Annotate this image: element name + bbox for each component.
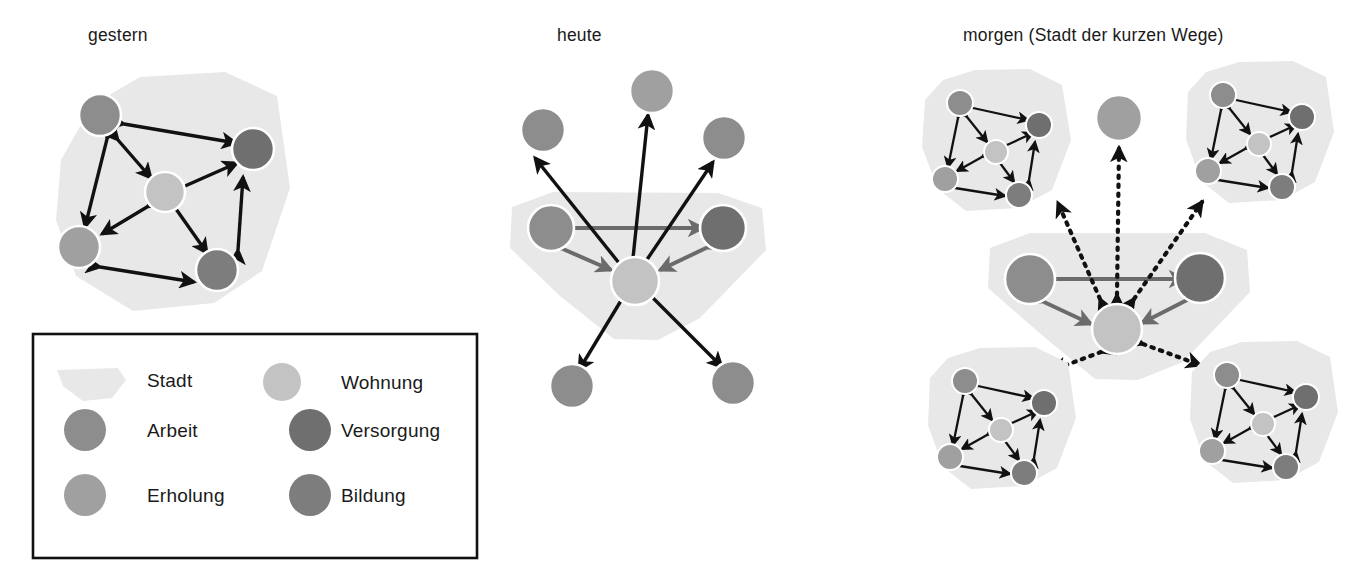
node-erholung[interactable]: [58, 226, 100, 268]
node-sw-versorgung[interactable]: [1031, 390, 1057, 416]
node-nw-arbeit[interactable]: [947, 90, 973, 116]
node-sw-bildung[interactable]: [1011, 460, 1037, 486]
node-ne-erholung[interactable]: [1195, 158, 1221, 184]
legend-label-stadt: Stadt: [147, 370, 193, 391]
diagram-canvas: gestern heute morgen (Stadt der kurzen W…: [0, 0, 1367, 568]
node-bildung-outer-bottomright[interactable]: [711, 361, 755, 405]
node-bildung-outer-bottomleft[interactable]: [550, 364, 594, 408]
node-ne-wohnung[interactable]: [1247, 132, 1271, 156]
node-sw-arbeit[interactable]: [952, 368, 978, 394]
arbeit-swatch-icon: [64, 409, 106, 451]
node-se-bildung[interactable]: [1273, 454, 1299, 480]
node-ne-arbeit[interactable]: [1210, 82, 1236, 108]
legend-label-arbeit: Arbeit: [147, 420, 198, 441]
node-se-wohnung[interactable]: [1251, 412, 1275, 436]
node-se-arbeit[interactable]: [1214, 362, 1240, 388]
node-nw-bildung[interactable]: [1006, 182, 1032, 208]
node-arbeit[interactable]: [79, 94, 121, 136]
panel-title-morgen: morgen (Stadt der kurzen Wege): [963, 25, 1224, 45]
legend-label-wohnung: Wohnung: [341, 372, 423, 393]
panel-gestern: [56, 72, 290, 311]
node-center-versorgung[interactable]: [1175, 253, 1225, 303]
versorgung-swatch-icon: [289, 409, 331, 451]
node-se-versorgung[interactable]: [1293, 384, 1319, 410]
panel-morgen: [922, 61, 1338, 489]
node-wohnung-center[interactable]: [611, 257, 659, 305]
node-erholung-outer-top[interactable]: [630, 69, 674, 113]
node-sw-wohnung[interactable]: [989, 418, 1013, 442]
panel-title-gestern: gestern: [88, 25, 148, 45]
quarter-northwest: [922, 69, 1071, 211]
panel-heute: [510, 69, 766, 408]
node-wohnung[interactable]: [145, 172, 185, 212]
legend-label-bildung: Bildung: [341, 485, 406, 506]
node-bildung[interactable]: [196, 249, 238, 291]
node-sw-erholung[interactable]: [937, 444, 963, 470]
node-arbeit-outer-left[interactable]: [521, 108, 565, 152]
quarter-southeast: [1190, 341, 1338, 483]
wohnung-swatch-icon: [263, 363, 301, 401]
quarter-northeast: [1186, 61, 1334, 203]
node-nw-versorgung[interactable]: [1026, 112, 1052, 138]
node-bildung-outer-right[interactable]: [702, 116, 746, 160]
panel-title-heute: heute: [557, 25, 602, 45]
node-center-arbeit[interactable]: [1005, 254, 1055, 304]
node-arbeit-inner-left[interactable]: [528, 205, 574, 251]
node-se-erholung[interactable]: [1199, 438, 1225, 464]
node-center-wohnung[interactable]: [1092, 304, 1142, 354]
node-ne-bildung[interactable]: [1269, 174, 1295, 200]
legend: Stadt Wohnung Arbeit Versorgung Erholung: [33, 334, 477, 558]
quarter-southwest: [928, 347, 1076, 489]
node-nw-erholung[interactable]: [932, 166, 958, 192]
legend-border: [33, 334, 477, 558]
node-versorgung-inner-right[interactable]: [700, 205, 746, 251]
legend-label-erholung: Erholung: [147, 485, 225, 506]
node-versorgung[interactable]: [232, 128, 274, 170]
node-ne-versorgung[interactable]: [1289, 104, 1315, 130]
bildung-swatch-icon: [289, 474, 331, 516]
erholung-swatch-icon: [64, 474, 106, 516]
node-nw-wohnung[interactable]: [984, 140, 1008, 164]
legend-label-versorgung: Versorgung: [341, 420, 440, 441]
figure-root: gestern heute morgen (Stadt der kurzen W…: [0, 0, 1367, 568]
node-standalone-erholung[interactable]: [1096, 95, 1142, 141]
